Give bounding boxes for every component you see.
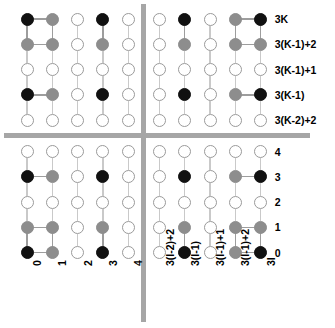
row-label: 3(K-1) <box>275 90 305 101</box>
lattice-connector-stub <box>26 76 27 88</box>
lattice-node <box>21 221 34 234</box>
lattice-connector-stub <box>52 51 53 63</box>
lattice-node <box>178 170 191 183</box>
lattice-node <box>122 38 135 51</box>
lattice-node <box>122 246 135 259</box>
lattice-connector-stub <box>209 51 210 63</box>
lattice-node <box>71 114 84 127</box>
lattice-figure: 3K3(K-1)+23(K-1)+13(K-1)3(K-2)+243210012… <box>0 0 335 328</box>
lattice-connector-stub <box>159 234 160 246</box>
lattice-node <box>21 196 34 209</box>
lattice-node <box>254 63 267 76</box>
lattice-node <box>229 88 242 101</box>
separator-horizontal <box>4 133 310 138</box>
lattice-connector-stub <box>260 51 261 63</box>
lattice-connector-stub <box>128 76 129 88</box>
lattice-node <box>153 38 166 51</box>
lattice-node <box>46 170 59 183</box>
lattice-node <box>71 221 84 234</box>
row-label: 3K <box>275 14 288 25</box>
lattice-node <box>204 63 217 76</box>
lattice-node <box>229 63 242 76</box>
lattice-connector-stub <box>52 76 53 88</box>
lattice-connector-stub <box>102 101 103 113</box>
lattice-node <box>122 145 135 158</box>
lattice-node <box>96 63 109 76</box>
lattice-node <box>204 145 217 158</box>
lattice-connector-stub <box>77 101 78 113</box>
lattice-connector-stub <box>128 26 129 38</box>
column-label: 3(I-2)+2 <box>165 229 176 266</box>
separator-vertical <box>141 4 146 322</box>
lattice-connector-stub <box>235 76 236 88</box>
lattice-connector-stub <box>26 183 27 195</box>
lattice-node <box>178 145 191 158</box>
lattice-node <box>71 63 84 76</box>
lattice-node <box>254 145 267 158</box>
lattice-node <box>178 63 191 76</box>
row-label: 3(K-1)+1 <box>275 65 317 76</box>
lattice-connector-stub <box>77 76 78 88</box>
lattice-connector-stub <box>184 76 185 88</box>
column-label: 3I <box>266 257 277 266</box>
lattice-connector-stub <box>159 51 160 63</box>
lattice-node <box>21 114 34 127</box>
lattice-connector-stub <box>77 51 78 63</box>
lattice-connector-stub <box>209 183 210 195</box>
lattice-node <box>46 88 59 101</box>
lattice-node <box>204 88 217 101</box>
lattice-connector-stub <box>235 101 236 113</box>
lattice-node <box>122 13 135 26</box>
lattice-connector-stub <box>77 209 78 221</box>
lattice-connector-stub <box>52 101 53 113</box>
column-label: 3(I-1)+2 <box>240 229 251 266</box>
column-label: 3(I-1)+1 <box>215 229 226 266</box>
lattice-node <box>96 196 109 209</box>
lattice-connector-stub <box>26 209 27 221</box>
lattice-node <box>153 13 166 26</box>
lattice-node <box>122 63 135 76</box>
lattice-connector-stub <box>260 183 261 195</box>
lattice-connector-stub <box>128 51 129 63</box>
lattice-connector-stub <box>184 183 185 195</box>
lattice-connector-stub <box>159 183 160 195</box>
lattice-node <box>71 246 84 259</box>
lattice-connector-stub <box>128 234 129 246</box>
lattice-connector-stub <box>52 209 53 221</box>
row-label: 2 <box>275 197 281 208</box>
lattice-connector-stub <box>260 76 261 88</box>
lattice-connector-stub <box>209 26 210 38</box>
lattice-connector-stub <box>77 26 78 38</box>
lattice-connector-stub <box>184 101 185 113</box>
lattice-node <box>178 13 191 26</box>
lattice-node <box>178 38 191 51</box>
row-label: 3 <box>275 172 281 183</box>
lattice-node <box>46 196 59 209</box>
lattice-node <box>122 114 135 127</box>
lattice-connector-stub <box>260 101 261 113</box>
lattice-connector-stub <box>26 158 27 170</box>
lattice-node <box>153 63 166 76</box>
lattice-connector-stub <box>235 51 236 63</box>
lattice-node <box>46 145 59 158</box>
lattice-node <box>96 38 109 51</box>
lattice-connector-stub <box>184 51 185 63</box>
lattice-node <box>71 13 84 26</box>
lattice-node <box>153 145 166 158</box>
lattice-connector-stub <box>52 158 53 170</box>
lattice-node <box>96 114 109 127</box>
lattice-node <box>178 221 191 234</box>
lattice-connector-stub <box>159 76 160 88</box>
lattice-connector-stub <box>77 183 78 195</box>
lattice-node <box>21 170 34 183</box>
lattice-node <box>153 114 166 127</box>
lattice-connector-stub <box>260 158 261 170</box>
lattice-node <box>122 88 135 101</box>
lattice-node <box>122 196 135 209</box>
lattice-connector-stub <box>26 101 27 113</box>
lattice-node <box>254 196 267 209</box>
lattice-node <box>254 88 267 101</box>
lattice-connector-stub <box>235 158 236 170</box>
lattice-node <box>71 170 84 183</box>
lattice-node <box>229 145 242 158</box>
